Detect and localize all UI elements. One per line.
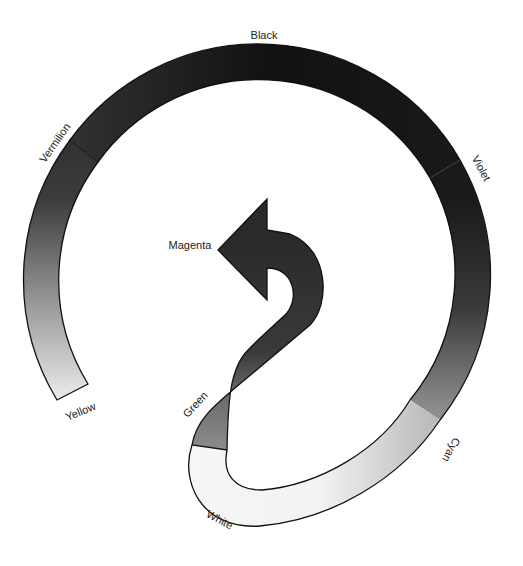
color-spiral-diagram: Black Vermilion Violet Yellow Magenta Gr… — [0, 0, 523, 566]
band-yellow-vermilion — [24, 140, 98, 400]
band-green-magenta — [192, 199, 323, 450]
label-yellow: Yellow — [64, 400, 98, 423]
label-magenta: Magenta — [169, 239, 213, 251]
label-black: Black — [251, 29, 278, 41]
band-vermilion-black-violet — [70, 44, 460, 178]
label-cyan: Cyan — [440, 436, 463, 464]
label-green: Green — [180, 389, 209, 420]
label-violet: Violet — [470, 153, 493, 183]
